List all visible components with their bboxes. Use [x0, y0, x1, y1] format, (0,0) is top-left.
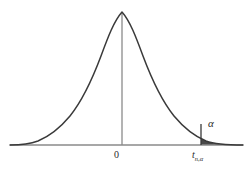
distribution-plot	[0, 0, 250, 169]
critical-value-label: tn,α	[192, 150, 203, 163]
center-tick-label: 0	[114, 150, 119, 160]
distribution-figure: 0 tn,α α	[0, 0, 250, 169]
tail-area-label: α	[208, 118, 214, 129]
critical-value-subscript: n,α	[195, 155, 203, 162]
